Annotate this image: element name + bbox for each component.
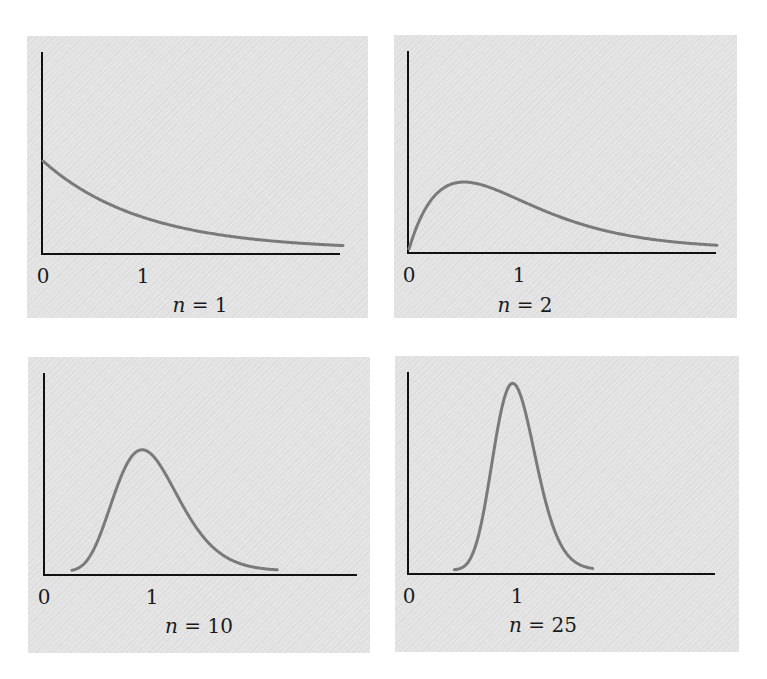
x-tick-1: 1 [513,265,526,285]
chart-panel-n10: 0 1 n = 10 [28,357,370,653]
panel-label: n = 10 [165,616,233,636]
x-tick-1: 1 [137,266,150,286]
x-tick-0: 0 [37,266,50,286]
x-tick-0: 0 [38,587,51,607]
chart-plot-n1 [27,36,368,318]
chart-plot-n10 [28,357,370,653]
n-value: = 1 [185,293,227,317]
x-tick-1: 1 [511,586,524,606]
chart-plot-n25 [395,356,739,652]
n-variable: n [165,614,178,638]
density-curve [454,383,592,569]
panel-label: n = 25 [509,615,577,635]
chart-panel-n25: 0 1 n = 25 [395,356,739,652]
n-value: = 2 [510,293,552,317]
chart-panel-n1: 0 1 n = 1 [27,36,368,318]
n-variable: n [509,613,522,637]
panel-label: n = 1 [172,295,227,315]
x-tick-1: 1 [146,587,159,607]
n-value: = 10 [178,614,233,638]
x-tick-0: 0 [403,265,416,285]
n-value: = 25 [522,613,577,637]
panel-label: n = 2 [497,295,552,315]
density-curve [43,161,343,246]
chart-panel-n2: 0 1 n = 2 [394,35,737,318]
n-variable: n [497,293,510,317]
density-curve [72,450,277,570]
density-curve [409,182,717,249]
chart-plot-n2 [394,35,737,318]
n-variable: n [172,293,185,317]
x-tick-0: 0 [403,586,416,606]
